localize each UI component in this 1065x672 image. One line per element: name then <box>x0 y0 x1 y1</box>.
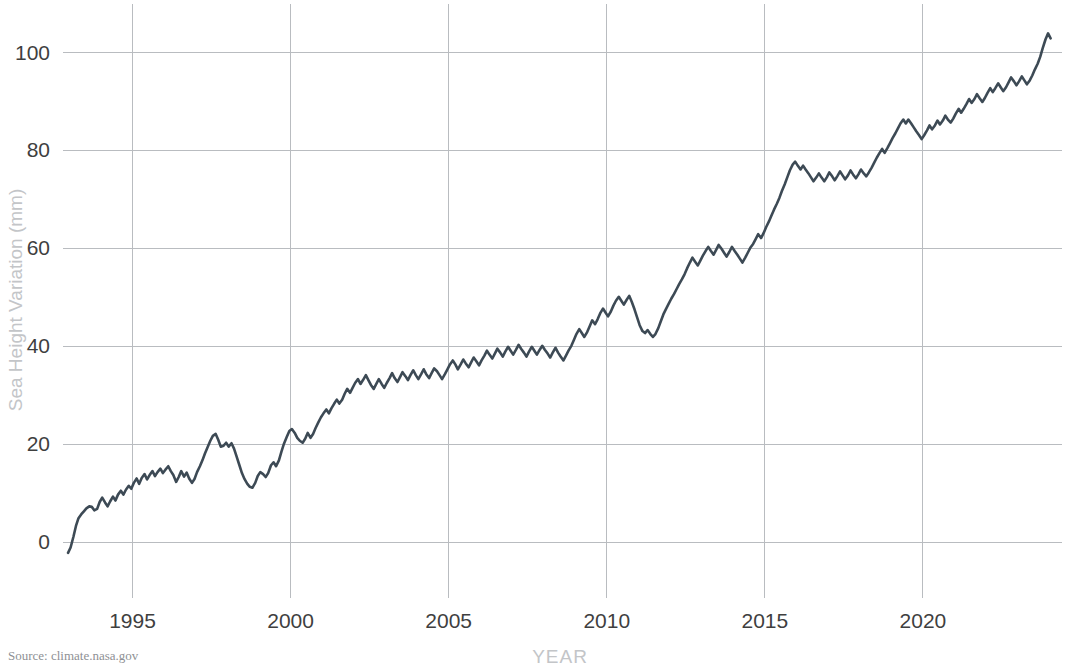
x-tick-label: 2010 <box>583 609 630 632</box>
x-tick-label: 2020 <box>900 609 947 632</box>
x-axis-tick-labels: 199520002005201020152020 <box>109 609 946 632</box>
y-tick-label: 20 <box>27 432 50 455</box>
source-attribution: Source: climate.nasa.gov <box>8 648 138 664</box>
gridlines-vertical <box>133 4 923 598</box>
y-tick-label: 100 <box>15 41 50 64</box>
y-axis-title: Sea Height Variation (mm) <box>5 189 26 411</box>
x-tick-label: 1995 <box>109 609 156 632</box>
x-axis-title: YEAR <box>532 646 588 667</box>
y-tick-label: 80 <box>27 138 50 161</box>
y-tick-label: 40 <box>27 334 50 357</box>
y-tick-label: 60 <box>27 236 50 259</box>
y-tick-label: 0 <box>38 530 50 553</box>
x-tick-label: 2015 <box>741 609 788 632</box>
chart-svg: 020406080100 199520002005201020152020 Se… <box>0 0 1065 672</box>
sea-height-line <box>68 33 1051 553</box>
x-tick-label: 2000 <box>267 609 314 632</box>
sea-level-chart: 020406080100 199520002005201020152020 Se… <box>0 0 1065 672</box>
x-tick-label: 2005 <box>425 609 472 632</box>
